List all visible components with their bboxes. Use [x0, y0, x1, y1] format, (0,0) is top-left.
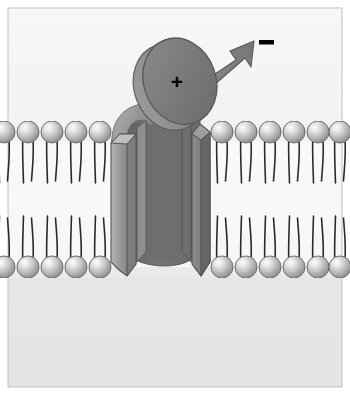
channel-column-left-facet: [127, 134, 136, 276]
illustration-canvas: +: [0, 0, 350, 395]
channel-column-inner-right: [182, 120, 191, 262]
ion-channel-protein: [111, 104, 210, 276]
intracellular-region: [9, 278, 341, 386]
channel-interior-shadow: [146, 120, 182, 260]
channel-column-inner-left: [137, 120, 146, 262]
membrane-channel-diagram: +: [0, 0, 350, 395]
positive-charge-label: +: [171, 70, 183, 93]
channel-column-right-facet: [201, 132, 210, 276]
negative-charge-marker: [259, 40, 274, 45]
